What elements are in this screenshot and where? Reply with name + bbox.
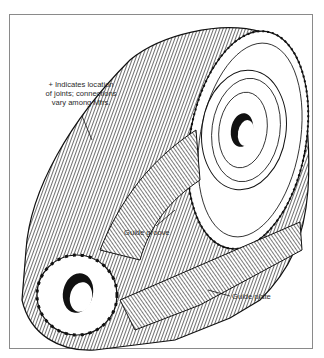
joints-note: + Indicates location of joints; connecti… (40, 80, 122, 107)
joints-note-line-2: of joints; connections (40, 89, 122, 98)
guide-plate-label: Guide plate (232, 292, 271, 301)
small-sprocket (37, 255, 117, 335)
joints-note-line-3: vary among Mfrs. (40, 98, 122, 107)
chain-drive-illustration (0, 0, 324, 358)
joints-note-line-1: + Indicates location (40, 80, 122, 89)
guide-groove-label: Guide groove (124, 228, 170, 237)
